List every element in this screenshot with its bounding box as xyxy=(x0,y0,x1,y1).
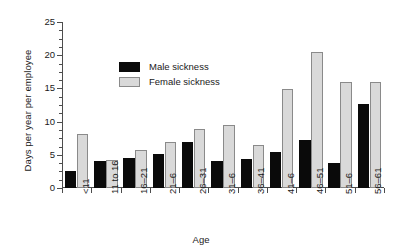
y-tick-label: 5 xyxy=(50,150,55,160)
bar-male xyxy=(182,142,194,188)
y-tick-label: 25 xyxy=(44,17,55,27)
y-tick-minor xyxy=(59,171,62,172)
x-axis-title: Age xyxy=(0,234,402,245)
x-tick-label: 21–6 xyxy=(168,173,178,194)
x-tick xyxy=(91,188,92,193)
y-tick-minor xyxy=(59,163,62,164)
x-tick-label: 51–6 xyxy=(344,173,354,194)
x-tick xyxy=(355,188,356,193)
x-tick xyxy=(325,188,326,193)
x-tick-label: <11 xyxy=(81,179,91,194)
y-axis-line xyxy=(62,22,63,188)
y-tick-label: 15 xyxy=(44,84,55,94)
y-tick xyxy=(57,155,62,156)
legend-label-female: Female sickness xyxy=(149,77,220,87)
y-tick-minor xyxy=(59,97,62,98)
x-tick xyxy=(150,188,151,193)
bar-male xyxy=(358,104,370,188)
x-tick-label: 36–41 xyxy=(256,168,266,194)
x-tick xyxy=(384,188,385,193)
x-tick-label: 26–31 xyxy=(198,168,208,194)
y-tick xyxy=(57,122,62,123)
y-tick xyxy=(57,55,62,56)
y-tick-label: 20 xyxy=(44,50,55,60)
x-tick xyxy=(121,188,122,193)
y-tick-minor xyxy=(59,105,62,106)
chart-legend: Male sickness Female sickness xyxy=(119,59,220,89)
x-tick xyxy=(208,188,209,193)
x-tick-label: 16–21 xyxy=(139,168,149,194)
y-tick-label: 10 xyxy=(44,117,55,127)
y-tick-label: 0 xyxy=(50,183,55,193)
y-tick-minor xyxy=(59,47,62,48)
x-tick xyxy=(62,188,63,193)
bar-male xyxy=(65,171,77,188)
bar-male xyxy=(328,163,340,188)
bar-male xyxy=(299,140,311,188)
sickness-by-age-bar-chart: Days per year per employee 0510152025 <1… xyxy=(0,0,402,251)
y-tick-minor xyxy=(59,138,62,139)
y-tick xyxy=(57,22,62,23)
bar-male xyxy=(241,159,253,188)
y-tick-minor xyxy=(59,147,62,148)
y-tick-minor xyxy=(59,30,62,31)
y-tick-minor xyxy=(59,72,62,73)
female-swatch-icon xyxy=(119,77,140,87)
x-tick-label: 46–51 xyxy=(315,168,325,194)
bar-male xyxy=(270,152,282,188)
y-axis-title: Days per year per employee xyxy=(22,21,33,201)
bar-male xyxy=(153,154,165,188)
legend-item-female: Female sickness xyxy=(119,74,220,89)
male-swatch-icon xyxy=(119,62,140,72)
y-tick-minor xyxy=(59,39,62,40)
y-tick xyxy=(57,88,62,89)
x-tick xyxy=(238,188,239,193)
x-tick-label: 11 to 16 xyxy=(110,160,120,194)
y-tick-minor xyxy=(59,80,62,81)
x-tick-label: 41–6 xyxy=(286,173,296,194)
y-tick-minor xyxy=(59,130,62,131)
y-tick-minor xyxy=(59,180,62,181)
x-tick-label: 31–6 xyxy=(227,173,237,194)
x-tick xyxy=(296,188,297,193)
bar-male xyxy=(211,161,223,188)
y-tick-minor xyxy=(59,64,62,65)
x-tick xyxy=(179,188,180,193)
bar-male xyxy=(94,161,106,188)
legend-item-male: Male sickness xyxy=(119,59,220,74)
legend-label-male: Male sickness xyxy=(149,62,209,72)
x-tick-label: 56–61 xyxy=(373,168,383,194)
bar-male xyxy=(123,158,135,188)
x-tick xyxy=(267,188,268,193)
y-tick-minor xyxy=(59,113,62,114)
